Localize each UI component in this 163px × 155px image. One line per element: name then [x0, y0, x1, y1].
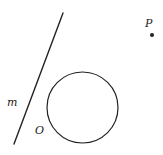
circle-o-label: O — [35, 124, 44, 137]
geometry-diagram: m O P — [0, 0, 163, 155]
line-m-label: m — [7, 96, 17, 109]
point-p — [150, 33, 154, 37]
point-p-label: P — [144, 17, 153, 30]
circle-o — [47, 72, 118, 143]
